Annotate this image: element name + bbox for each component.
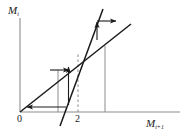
x-tick-label-0: 0: [17, 114, 22, 124]
y-axis-label-subscript: t: [17, 11, 19, 17]
x-axis-label-base: M: [146, 117, 155, 129]
y-axis-label-base: M: [8, 4, 17, 16]
x-tick-label-2: 2: [75, 114, 80, 124]
y-axis-label: Mt: [8, 5, 19, 16]
phase-diagram-figure: Mt Mt+1 0 2: [0, 0, 188, 138]
x-axis-label: Mt+1: [146, 118, 164, 129]
x-axis-label-subscript: t+1: [155, 124, 164, 130]
guide-lines-group: [58, 46, 105, 112]
forty-five-degree-line: [20, 24, 131, 112]
curves-group: [20, 9, 131, 126]
axes-group: [20, 18, 180, 112]
